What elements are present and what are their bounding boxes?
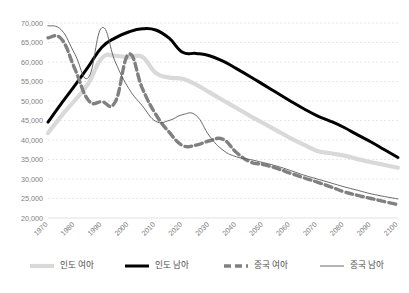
x-axis-tick-label: 1980 (59, 220, 77, 238)
line-chart: 70,00065,00060,00055,00050,00045,00040,0… (0, 0, 409, 293)
series-line-india-girls (48, 55, 398, 168)
x-axis-tick-labels: 1970198019902000201020202030204020502060… (32, 220, 400, 238)
x-axis-tick-label: 2080 (328, 220, 346, 238)
series-line-china-boys (48, 26, 398, 199)
y-axis-tick-label: 55,000 (21, 77, 43, 86)
x-axis-tick-label: 2050 (247, 220, 265, 238)
x-axis-tick-label: 2100 (382, 220, 400, 238)
x-axis-tick-label: 2000 (113, 220, 131, 238)
y-axis-tick-label: 20,000 (21, 214, 43, 223)
x-axis-tick-label: 2020 (166, 220, 184, 238)
gridlines (48, 23, 398, 218)
x-axis-tick-label: 1970 (32, 220, 50, 238)
y-axis-tick-label: 30,000 (21, 175, 43, 184)
y-axis-tick-label: 60,000 (21, 58, 43, 67)
y-axis-tick-label: 65,000 (21, 38, 43, 47)
x-axis-tick-label: 2070 (301, 220, 319, 238)
y-axis-tick-label: 45,000 (21, 116, 43, 125)
y-axis-tick-label: 70,000 (21, 19, 43, 28)
y-axis-tick-label: 25,000 (21, 194, 43, 203)
y-axis-tick-label: 35,000 (21, 155, 43, 164)
x-axis-tick-label: 2030 (193, 220, 211, 238)
chart-container: 70,00065,00060,00055,00050,00045,00040,0… (0, 0, 409, 293)
legend-label-china-girls[interactable]: 중국 여아 (254, 259, 288, 270)
legend-label-india-boys[interactable]: 인도 남아 (155, 260, 189, 270)
y-axis-tick-label: 50,000 (21, 97, 43, 106)
legend-label-india-girls[interactable]: 인도 여아 (60, 259, 94, 270)
y-axis-tick-label: 40,000 (21, 136, 43, 145)
chart-series (48, 26, 398, 205)
x-axis-tick-label: 2040 (220, 220, 238, 238)
x-axis-tick-label: 2010 (139, 220, 157, 238)
legend-label-china-boys[interactable]: 중국 남아 (350, 260, 384, 270)
x-axis-tick-label: 2060 (274, 220, 292, 238)
chart-legend: 인도 여아인도 남아중국 여아중국 남아 (30, 259, 384, 270)
x-axis-tick-label: 1990 (86, 220, 104, 238)
y-axis-tick-labels: 70,00065,00060,00055,00050,00045,00040,0… (21, 19, 43, 223)
x-axis-tick-label: 2090 (355, 220, 373, 238)
